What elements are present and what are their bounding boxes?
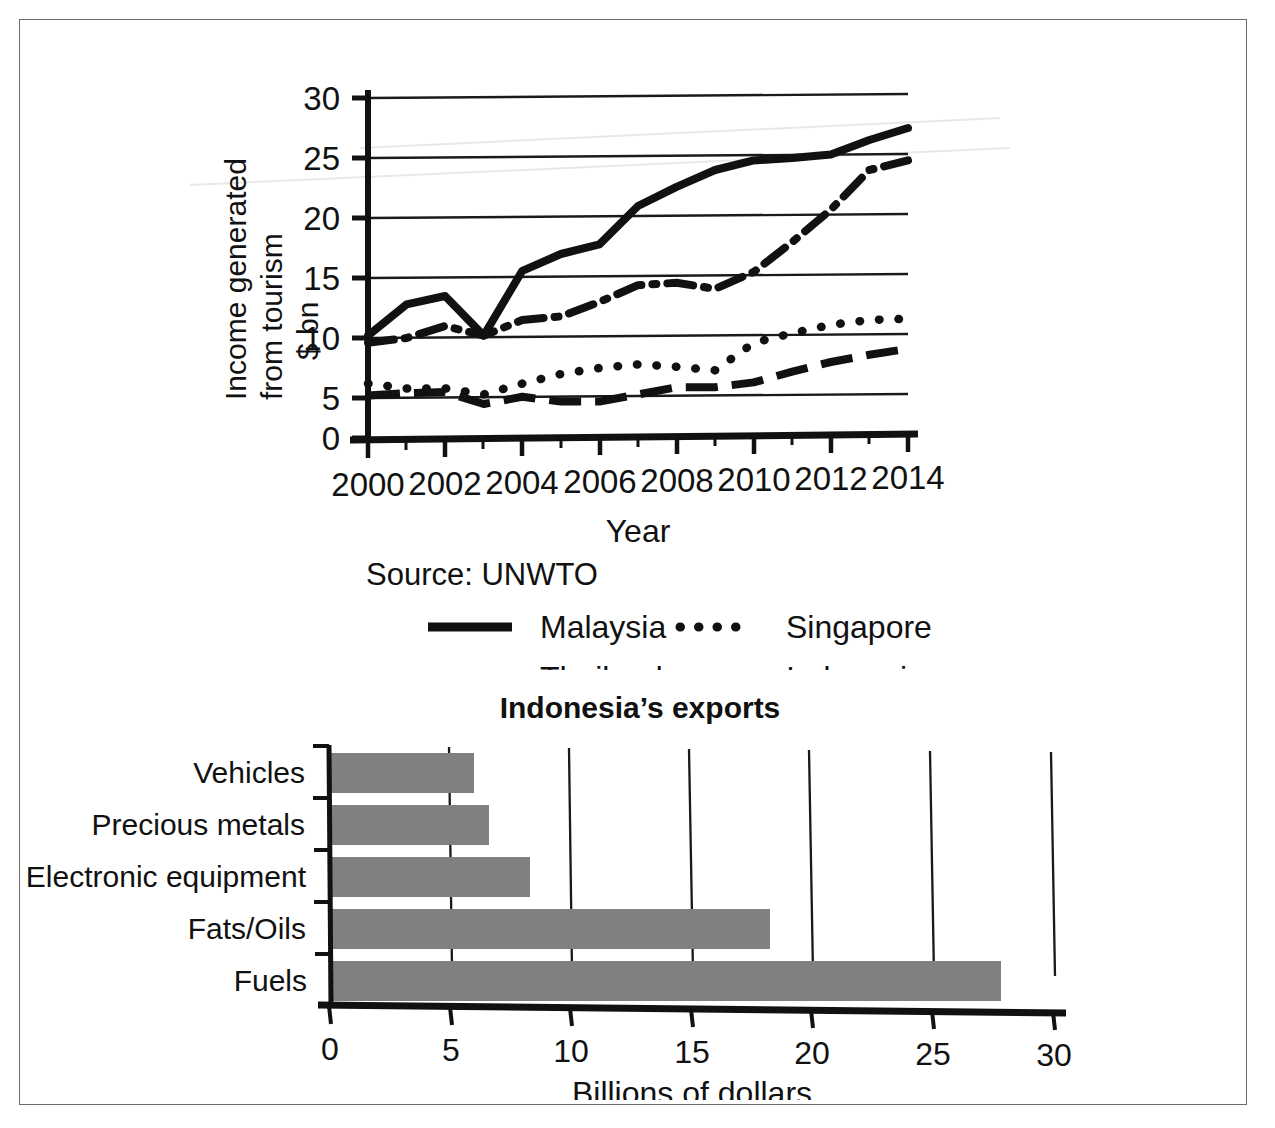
legend-label-malaysia: Malaysia: [540, 609, 666, 645]
bar-x-tick-label: 25: [915, 1036, 951, 1072]
x-tick-label: 2010: [717, 461, 790, 498]
x-tick-label: 2004: [485, 464, 558, 501]
bar-y-axis-line: [329, 745, 331, 1006]
legend: Malaysia Singapore Thailand Indonesia: [428, 609, 932, 670]
source-label: Source: UNWTO: [366, 557, 598, 592]
bar-x-axis-title: Billions of dollars: [572, 1075, 812, 1100]
y-axis-title-line-3: $ bn: [291, 302, 324, 360]
bar-electronic-equipment: [330, 857, 530, 897]
bar-category-label-fats-oils: Fats/Oils: [188, 912, 306, 945]
bar-vehicles: [329, 753, 474, 793]
series-line-singapore: [368, 319, 908, 395]
bar-x-tick-label: 10: [553, 1033, 589, 1069]
x-tick-label: 2006: [563, 463, 636, 500]
indonesia-exports-bar-chart: Indonesia’s exports: [0, 680, 1275, 1100]
bar-x-tick-label: 30: [1036, 1037, 1072, 1073]
bar-category-label-precious-metals: Precious metals: [92, 808, 305, 841]
bar-category-label-fuels: Fuels: [234, 964, 307, 997]
y-tick-label: 15: [303, 260, 340, 297]
bar-fuels: [331, 961, 1001, 1001]
legend-label-singapore: Singapore: [786, 609, 932, 645]
series-line-thailand: [368, 160, 908, 342]
bar-x-tick-label: 20: [794, 1035, 830, 1071]
bar-category-label-vehicles: Vehicles: [193, 756, 305, 789]
line-chart-svg: 30 25 20 15 10 5 0 2000 2002 2004 2006 2…: [0, 30, 1275, 670]
figure-page: 30 25 20 15 10 5 0 2000 2002 2004 2006 2…: [0, 0, 1275, 1128]
y-tick-label: 5: [322, 380, 340, 417]
bars-group: [329, 753, 1001, 1001]
x-tick-label: 2014: [871, 459, 944, 496]
bar-x-tick-label: 15: [674, 1034, 710, 1070]
y-axis-title-line-1: Income generated: [219, 158, 252, 400]
tourism-income-line-chart: 30 25 20 15 10 5 0 2000 2002 2004 2006 2…: [0, 30, 1275, 670]
bar-category-label-electronic-equipment: Electronic equipment: [26, 860, 307, 893]
y-tick-label: 30: [303, 80, 340, 117]
y-axis-title-line-2: from tourism: [255, 233, 288, 400]
series-line-malaysia: [368, 128, 908, 336]
bar-chart-svg: Indonesia’s exports: [0, 680, 1275, 1100]
x-axis-title: Year: [606, 513, 671, 549]
bar-precious-metals: [329, 805, 489, 845]
legend-label-indonesia: Indonesia: [786, 660, 925, 670]
bar-x-tick-label: 0: [321, 1031, 339, 1067]
x-tick-label: 2002: [408, 465, 481, 502]
x-tick-label: 2000: [331, 466, 404, 503]
x-tick-label: 2012: [794, 460, 867, 497]
bar-chart-title: Indonesia’s exports: [500, 691, 781, 724]
x-tick-label: 2008: [640, 462, 713, 499]
bar-fats-oils: [330, 909, 770, 949]
y-tick-label: 25: [303, 140, 340, 177]
y-tick-label: 0: [322, 420, 340, 457]
y-tick-label: 20: [303, 200, 340, 237]
legend-label-thailand: Thailand: [540, 660, 663, 670]
y-gridlines: [368, 94, 908, 398]
bar-x-tick-label: 5: [442, 1032, 460, 1068]
